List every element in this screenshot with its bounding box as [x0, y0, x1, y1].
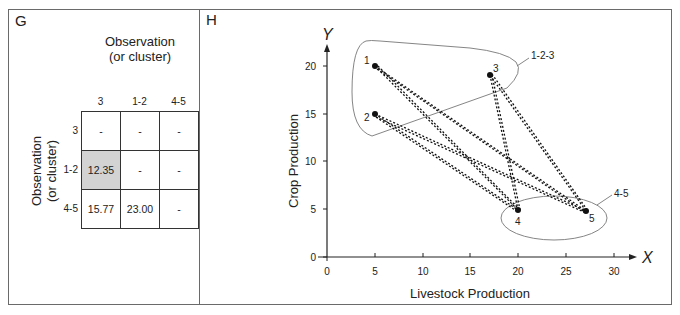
y-tick-label: 15 — [305, 109, 317, 120]
link-1-4 — [378, 66, 520, 210]
point-4 — [515, 207, 521, 213]
link-3-4 — [492, 75, 520, 210]
cluster-label-4-5: 4-5 — [614, 188, 629, 199]
x-axis-title: Livestock Production — [410, 286, 530, 301]
point-2 — [372, 111, 378, 117]
point-label: 3 — [493, 63, 499, 74]
x-tick-label: 0 — [324, 266, 330, 277]
cluster-links — [375, 66, 588, 213]
cluster-label-1-2-3: 1-2-3 — [531, 50, 555, 61]
link-2-4 — [375, 114, 518, 210]
x-tick-label: 25 — [560, 266, 572, 277]
x-axis-variable: X — [641, 249, 654, 266]
y-tick-label: 5 — [310, 204, 316, 215]
point-label: 1 — [364, 55, 370, 66]
y-tick-label: 10 — [305, 156, 317, 167]
point-label: 4 — [515, 216, 521, 227]
point-label: 5 — [589, 213, 595, 224]
cluster-outline-1-2-3 — [352, 41, 519, 137]
link-2-4 — [376, 117, 518, 212]
y-axis-arrow-icon — [324, 44, 330, 52]
point-1 — [372, 63, 378, 69]
y-axis-title: Crop Production — [286, 114, 301, 208]
x-tick-label: 20 — [512, 266, 524, 277]
link-1-4 — [375, 66, 518, 210]
point-label: 2 — [364, 112, 370, 123]
panel-label-h: H — [206, 11, 217, 28]
scatter-plot: H 1-2-3 4-5 Y X 0 5 10 15 20 — [0, 0, 680, 315]
x-tick-label: 15 — [464, 266, 476, 277]
y-tick-label: 0 — [310, 252, 316, 263]
x-tick-label: 10 — [417, 266, 429, 277]
link-1-5 — [377, 69, 586, 213]
y-axis-variable: Y — [322, 26, 334, 43]
y-tick-label: 20 — [305, 61, 317, 72]
cluster-leader-4-5 — [597, 195, 612, 205]
link-2-5 — [376, 117, 586, 213]
link-1-5 — [375, 66, 586, 211]
x-tick-label: 5 — [372, 266, 378, 277]
x-axis-arrow-icon — [629, 254, 637, 260]
x-tick-label: 30 — [608, 266, 620, 277]
cluster-leader-1-2-3 — [517, 58, 529, 66]
